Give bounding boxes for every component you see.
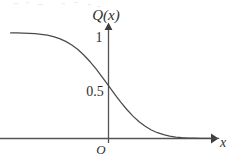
scan-artifact: [14, 2, 101, 7]
q-function-curve: [11, 33, 219, 139]
x-axis-label: x: [220, 136, 226, 150]
y-tick-label-one: 1: [96, 31, 103, 45]
q-function-plot-figure: Q(x) 1 0.5 O x: [0, 0, 231, 168]
y-axis-arrowhead: [105, 23, 113, 31]
y-tick-label-half: 0.5: [86, 85, 104, 99]
origin-label: O: [96, 143, 105, 156]
y-axis-label: Q(x): [92, 8, 119, 23]
plot-canvas: [0, 0, 231, 168]
